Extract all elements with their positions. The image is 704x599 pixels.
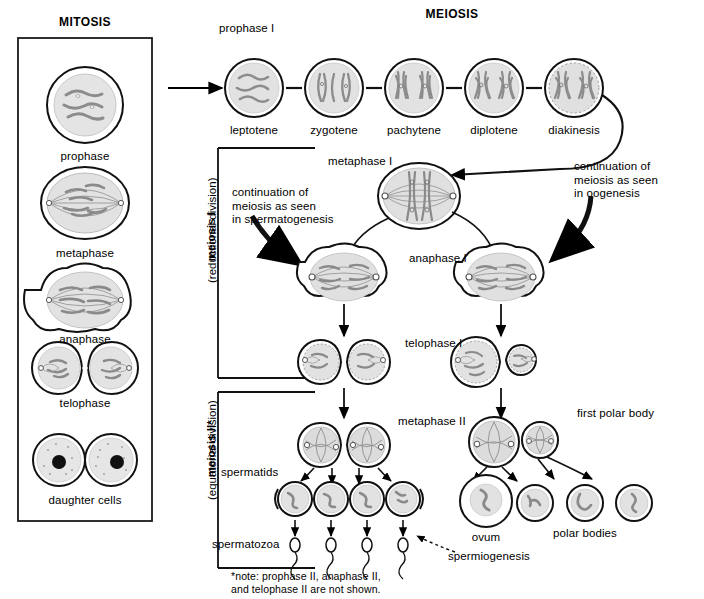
meiosis-title: MEIOSIS <box>426 8 479 22</box>
polar-body-cell-1 <box>517 485 553 521</box>
meiosis-stage-label-telophase1: telophase I <box>405 337 462 351</box>
arrow-to-polar-body-1 <box>502 467 517 481</box>
annotation-oogenesis: continuation of meiosis as seen in oogen… <box>574 160 658 201</box>
label-spermatids: spermatids <box>221 466 278 480</box>
meiosis-anaphase1-left-cell <box>297 244 387 302</box>
meiosis-stage-label-diakinesis: diakinesis <box>548 124 600 138</box>
meiosis-telophase1-right-cell <box>451 337 536 387</box>
meiosis-2-division-sublabel: (equatorial division) <box>206 400 219 500</box>
meiosis-anaphase1-right-cell <box>454 244 544 302</box>
figure-footnote: *note: prophase II, anaphase II, and tel… <box>231 570 381 596</box>
meiosis-telophase1-left-cell <box>298 340 390 384</box>
meiosis-metaphase2-right-cell <box>469 417 519 467</box>
meiosis-stage-label-metaphase2: metaphase II <box>398 415 466 429</box>
arrow-to-spermatid-4 <box>378 468 391 481</box>
polar-body-cell-2 <box>567 485 603 521</box>
arrow-oogenesis-note <box>565 196 591 248</box>
arrow-to-spermatid-1 <box>301 468 314 481</box>
meiosis-metaphase1-cell <box>378 163 460 229</box>
arrow-to-polar-body-2 <box>538 459 554 479</box>
label-spermiogenesis: spermiogenesis <box>448 550 530 564</box>
ovum-cell <box>460 475 512 527</box>
meiosis-zygotene-cell <box>305 59 363 117</box>
meiosis-1-division-sublabel: (reductional division) <box>206 178 219 283</box>
label-first-polar-body: first polar body <box>577 407 654 421</box>
meiosis-prophase1-group-label: prophase I <box>219 22 274 36</box>
meiosis-stage-label-diplotene: diplotene <box>470 124 518 138</box>
mitosis-title: MITOSIS <box>59 16 111 30</box>
mitosis-anaphase-cell <box>24 264 131 333</box>
mitosis-metaphase-cell <box>41 167 129 239</box>
polar-body-cell-3 <box>616 485 652 521</box>
spermatid-chain <box>273 480 423 519</box>
annotation-spermatogenesis: continuation of meiosis as seen in sperm… <box>232 186 334 227</box>
meiosis-diplotene-cell <box>465 59 523 117</box>
meiosis-pachytene-cell <box>385 59 443 117</box>
meiosis-first-polar-body-cell <box>522 422 558 458</box>
diagram-vector-layer <box>0 0 704 599</box>
mitosis-stage-label-daughter-cells: daughter cells <box>49 494 122 508</box>
mitosis-prophase-cell <box>47 67 123 143</box>
label-polar-bodies: polar bodies <box>553 527 617 541</box>
meiosis-stage-label-leptotene: leptotene <box>230 124 278 138</box>
meiosis-stage-label-metaphase1: metaphase I <box>328 155 392 169</box>
label-ovum: ovum <box>472 531 501 545</box>
meiosis-metaphase2-left-cells <box>298 423 390 467</box>
meiosis-diakinesis-cell <box>545 59 603 117</box>
meiosis-stage-label-anaphase1: anaphase I <box>409 252 467 266</box>
spermatozoa-group <box>290 538 408 552</box>
arrow-to-polar-body-3 <box>547 457 592 479</box>
meiosis-leptotene-cell <box>225 59 283 117</box>
meiosis-stage-label-pachytene: pachytene <box>387 124 441 138</box>
meiosis-stage-label-zygotene: zygotene <box>310 124 357 138</box>
mitosis-daughter-cells <box>33 434 137 486</box>
mitosis-stage-label-prophase: prophase <box>61 150 110 164</box>
mitosis-stage-label-anaphase: anaphase <box>59 333 110 347</box>
figure-canvas: MITOSIS MEIOSIS prophase metaphase anaph… <box>0 0 704 599</box>
label-spermatozoa: spermatozoa <box>212 538 280 552</box>
mitosis-stage-label-telophase: telophase <box>60 397 111 411</box>
mitosis-stage-label-metaphase: metaphase <box>56 247 114 261</box>
